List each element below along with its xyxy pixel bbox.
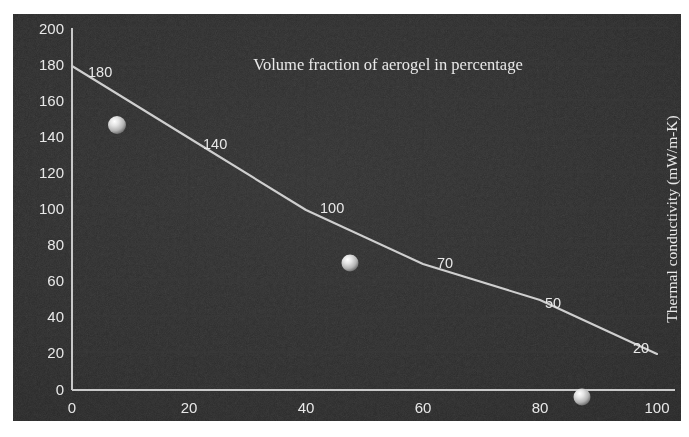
x-tick-label: 80 xyxy=(532,399,549,416)
sample-marker-sphere xyxy=(342,255,359,272)
x-tick-label: 60 xyxy=(415,399,432,416)
page-text-remnant xyxy=(20,0,440,10)
y-tick-labels: 200 180 160 140 120 100 80 60 40 20 0 xyxy=(39,20,64,398)
data-label-100: 100 xyxy=(320,200,344,216)
y-tick-label: 180 xyxy=(39,56,64,73)
y-tick-label: 160 xyxy=(39,92,64,109)
sample-markers xyxy=(108,116,591,406)
figure-container: 200 180 160 140 120 100 80 60 40 20 0 0 … xyxy=(0,0,689,437)
y-tick-label: 140 xyxy=(39,128,64,145)
y-axis-title: Thermal conductivity (mW/m-K) xyxy=(663,115,681,322)
y-tick-label: 100 xyxy=(39,200,64,217)
chart-panel: 200 180 160 140 120 100 80 60 40 20 0 0 … xyxy=(13,14,681,421)
y-tick-label: 20 xyxy=(47,344,64,361)
data-label-50: 50 xyxy=(545,295,561,311)
y-tick-label: 60 xyxy=(47,272,64,289)
y-tick-label: 80 xyxy=(47,236,64,253)
y-tick-label: 40 xyxy=(47,308,64,325)
sample-marker-sphere xyxy=(574,389,591,406)
x-tick-label: 40 xyxy=(298,399,315,416)
gridlines-horizontal xyxy=(72,28,668,352)
data-label-140: 140 xyxy=(203,136,227,152)
x-tick-label: 0 xyxy=(68,399,76,416)
y-tick-label: 200 xyxy=(39,20,64,37)
trend-line xyxy=(72,66,657,354)
data-label-180: 180 xyxy=(88,64,112,80)
chart-title: Volume fraction of aerogel in percentage xyxy=(253,55,523,74)
data-label-70: 70 xyxy=(437,255,453,271)
x-tick-label: 20 xyxy=(181,399,198,416)
x-tick-label: 100 xyxy=(644,399,669,416)
y-tick-label: 0 xyxy=(56,381,64,398)
sample-marker-sphere xyxy=(108,116,126,134)
gridlines-vertical xyxy=(189,28,657,390)
data-label-20: 20 xyxy=(633,340,649,356)
plot-area: 200 180 160 140 120 100 80 60 40 20 0 0 … xyxy=(13,14,681,421)
y-tick-label: 120 xyxy=(39,164,64,181)
